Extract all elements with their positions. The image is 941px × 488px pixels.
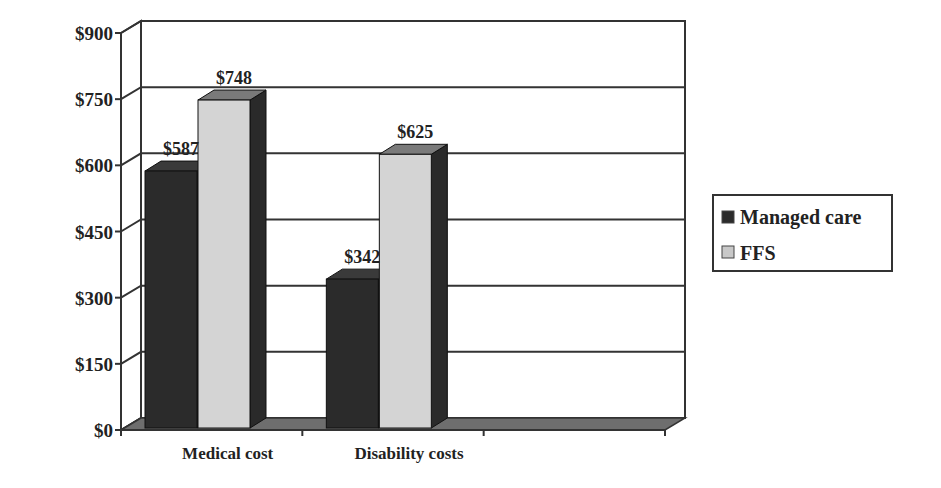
legend: Managed care FFS [713, 195, 892, 271]
category-label: Disability costs [354, 444, 463, 463]
value-label: $625 [397, 122, 433, 142]
bar-side [250, 90, 266, 428]
y-tick-label: $300 [75, 288, 113, 309]
value-label: $748 [216, 68, 252, 88]
y-tick-label: $900 [75, 23, 113, 44]
y-tick-label: $150 [75, 354, 113, 375]
bar-front [379, 154, 431, 428]
category-labels: Medical costDisability costs [182, 444, 464, 463]
y-tick-labels: $0$150$300$450$600$750$900 [75, 23, 113, 441]
legend-swatch-managed-care [722, 211, 734, 223]
legend-label-managed-care: Managed care [740, 206, 861, 229]
bar-front [326, 279, 378, 428]
bar-ffs-medical-cost [198, 90, 266, 428]
x-axis [121, 430, 665, 436]
category-label: Medical cost [182, 444, 273, 463]
y-tick-label: $600 [75, 155, 113, 176]
y-axis [115, 33, 121, 430]
bar-front [145, 171, 197, 428]
value-label: $342 [344, 247, 380, 267]
bar-ffs-disability-costs [379, 144, 447, 428]
y-tick-label: $0 [94, 420, 113, 441]
bar-chart: $0$150$300$450$600$750$900 Medical costD… [0, 0, 941, 488]
legend-swatch-ffs [722, 246, 734, 258]
y-tick-label: $450 [75, 222, 113, 243]
bar-front [198, 100, 250, 428]
bar-side [431, 144, 447, 428]
value-label: $587 [163, 139, 199, 159]
legend-label-ffs: FFS [740, 242, 776, 264]
y-tick-label: $750 [75, 89, 113, 110]
